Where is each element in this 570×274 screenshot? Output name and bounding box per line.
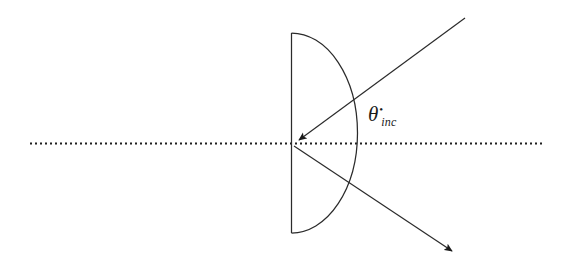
optics-diagram	[0, 0, 570, 274]
diagram-canvas: θ•inc	[0, 0, 570, 274]
theta-prime-mark: •	[379, 103, 383, 115]
theta-symbol: θ	[368, 102, 378, 126]
theta-subscript: inc	[381, 115, 397, 129]
outgoing-ray	[294, 146, 452, 251]
lens-curved-face	[292, 33, 358, 233]
angle-label-theta-inc: θ•inc	[368, 104, 398, 125]
